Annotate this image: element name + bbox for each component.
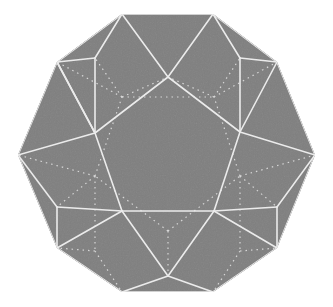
figure-viewport: Polyhedron wireframe render Shaded gray … [0, 0, 333, 307]
polyhedron-figure: Polyhedron wireframe render Shaded gray … [0, 0, 333, 307]
